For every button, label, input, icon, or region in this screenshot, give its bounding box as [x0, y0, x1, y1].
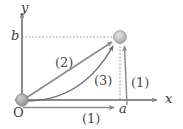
- path-1-vertical-arrow: [125, 46, 128, 105]
- path-1-horizontal-label: (1): [82, 112, 100, 125]
- path-2-label: (2): [55, 56, 73, 69]
- physics-path-diagram: y x b a O (2) (3) (1) (1): [0, 0, 183, 129]
- diagram-canvas: [0, 0, 183, 129]
- path-2-diagonal-arrow: [26, 42, 112, 98]
- x-axis-label: x: [165, 92, 172, 105]
- y-axis-label: y: [21, 1, 28, 14]
- target-point-ball: [114, 31, 127, 44]
- x-tick-label-a: a: [119, 102, 127, 115]
- path-1-vertical-label: (1): [131, 76, 149, 89]
- origin-label: O: [13, 106, 24, 119]
- y-tick-label-b: b: [11, 29, 19, 42]
- path-3-label: (3): [94, 74, 112, 87]
